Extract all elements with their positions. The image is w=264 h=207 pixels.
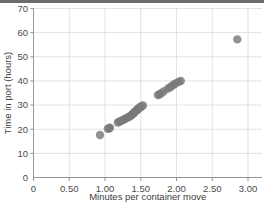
data-point xyxy=(177,77,185,85)
y-axis-title: Time in port (hours) xyxy=(2,52,13,135)
x-tick-label: 3.00 xyxy=(239,183,258,194)
y-tick-label: 10 xyxy=(17,148,28,159)
data-point xyxy=(106,124,114,132)
x-tick-label: 0.50 xyxy=(60,183,79,194)
gridlines xyxy=(34,9,263,178)
x-tick-label: 0 xyxy=(31,183,36,194)
y-axis-ticks: 010203040506070 xyxy=(17,3,33,183)
axes xyxy=(34,9,263,178)
y-tick-label: 70 xyxy=(17,3,28,14)
x-axis-title: Minutes per container move xyxy=(89,191,206,202)
y-tick-label: 50 xyxy=(17,51,28,62)
y-tick-label: 60 xyxy=(17,27,28,38)
y-tick-label: 30 xyxy=(17,99,28,110)
plot-canvas: 01020304050607000.501.001.502.002.503.00… xyxy=(0,0,264,207)
data-point xyxy=(96,131,104,139)
y-tick-label: 0 xyxy=(23,172,28,183)
data-point xyxy=(233,35,241,43)
scatter-plot-figure: 01020304050607000.501.001.502.002.503.00… xyxy=(0,0,264,207)
data-point xyxy=(139,101,147,109)
y-tick-label: 40 xyxy=(17,75,28,86)
data-points xyxy=(96,35,242,139)
y-tick-label: 20 xyxy=(17,124,28,135)
